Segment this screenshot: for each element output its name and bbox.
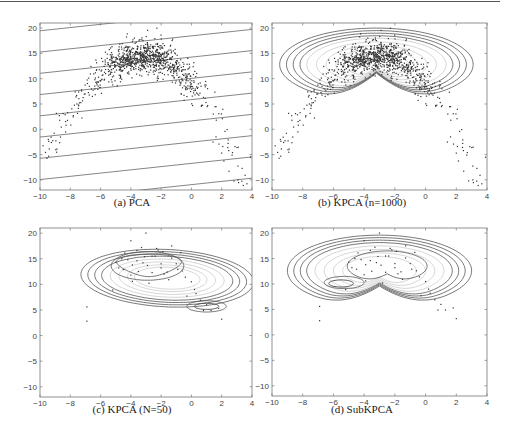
x-tick-label: 2 — [454, 398, 459, 407]
y-tick-label: 10 — [260, 280, 269, 289]
caption-d: (d) SubKPCA — [302, 403, 422, 415]
x-tick-label: −10 — [265, 398, 279, 407]
x-tick-label: 0 — [423, 398, 428, 407]
y-tick-label: 15 — [260, 255, 269, 264]
y-tick-label: −5 — [260, 356, 270, 365]
plot-d: −10−8−6−4−2024−10−505101520 — [0, 0, 513, 432]
y-tick-label: 20 — [260, 229, 269, 238]
y-tick-label: 0 — [265, 331, 270, 340]
y-tick-label: 5 — [265, 305, 270, 314]
x-tick-label: 4 — [485, 398, 490, 407]
y-tick-label: −10 — [255, 382, 269, 391]
